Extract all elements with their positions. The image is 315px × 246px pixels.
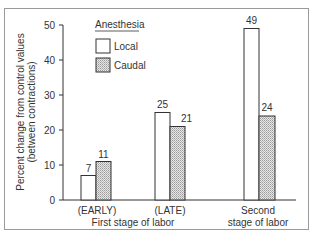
legend-swatch-local bbox=[96, 39, 110, 53]
y-axis-label: Percent change from control values (betw… bbox=[15, 33, 37, 190]
tick-label: 40 bbox=[44, 55, 56, 66]
category-label-early: (EARLY) bbox=[78, 205, 117, 216]
legend-label-caudal: Caudal bbox=[114, 60, 146, 71]
tick-label: 20 bbox=[44, 125, 56, 136]
value-label: 25 bbox=[157, 99, 169, 110]
bar-early-local bbox=[81, 176, 96, 201]
tick-label: 30 bbox=[44, 90, 56, 101]
value-label: 11 bbox=[98, 149, 109, 160]
value-label: 24 bbox=[261, 102, 273, 113]
value-label: 49 bbox=[246, 15, 258, 26]
tick-label: 10 bbox=[44, 160, 56, 171]
category-label-second-line1: Second bbox=[241, 205, 275, 216]
bar-chart: Percent change from control values (betw… bbox=[0, 0, 315, 246]
bar-late-caudal bbox=[170, 127, 185, 201]
group-label-first-stage: First stage of labor bbox=[92, 217, 175, 228]
y-axis-ticks bbox=[59, 25, 63, 200]
tick-label: 0 bbox=[49, 195, 55, 206]
category-label-late: (LATE) bbox=[155, 205, 186, 216]
y-axis-label-line2: (between contractions) bbox=[26, 61, 37, 162]
bar-late-local bbox=[155, 113, 170, 201]
legend: Anesthesia Local Caudal bbox=[95, 19, 146, 72]
tick-label: 50 bbox=[44, 20, 56, 31]
legend-title: Anesthesia bbox=[95, 19, 145, 30]
y-tick-labels: 0 10 20 30 40 50 bbox=[44, 20, 56, 206]
legend-swatch-caudal bbox=[96, 58, 110, 72]
x-category-labels: (EARLY) (LATE) Second stage of labor Fir… bbox=[78, 205, 289, 228]
category-label-second-line2: stage of labor bbox=[228, 217, 289, 228]
value-label: 7 bbox=[86, 163, 92, 174]
value-label: 21 bbox=[181, 113, 193, 124]
y-axis-label-line1: Percent change from control values bbox=[15, 33, 26, 190]
bar-second-local bbox=[244, 29, 259, 201]
legend-label-local: Local bbox=[114, 41, 138, 52]
bar-early-caudal bbox=[96, 162, 111, 201]
bar-second-caudal bbox=[259, 116, 275, 200]
